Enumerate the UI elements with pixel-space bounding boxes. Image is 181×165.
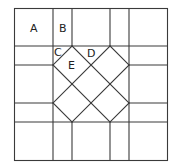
label-b: B [59, 22, 67, 35]
label-c: C [54, 46, 62, 59]
label-d: D [87, 47, 95, 60]
label-e: E [68, 59, 75, 72]
tiling-diagram: A B C D E [0, 0, 181, 165]
label-a: A [30, 22, 38, 35]
